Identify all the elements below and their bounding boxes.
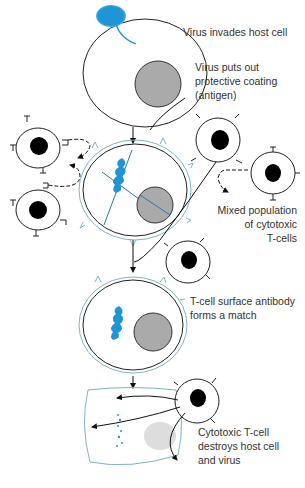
virus-icon	[96, 5, 126, 27]
tcell-right-mid	[251, 147, 300, 200]
fragmented-virus	[116, 414, 123, 447]
tcell-left-top	[10, 116, 68, 173]
antigen-coated-cell	[79, 138, 193, 246]
label-mixed-population: Mixed population of cytotoxic T-cells	[200, 203, 297, 245]
tcell-killer	[174, 378, 219, 423]
host-cell-infection	[83, 5, 207, 127]
matched-cell	[79, 276, 187, 373]
label-tcell-destroys: Cytotoxic T-cell destroys host cell and …	[198, 425, 279, 467]
host-nucleus	[135, 61, 181, 107]
label-virus-invades: Virus invades host cell	[183, 25, 287, 39]
label-protective-coating: Virus puts out protective coating (antig…	[195, 60, 277, 102]
label-antibody-match: T-cell surface antibody forms a match	[190, 294, 295, 322]
tcell-right-top	[191, 114, 242, 163]
tcell-left-bottom	[10, 183, 66, 236]
